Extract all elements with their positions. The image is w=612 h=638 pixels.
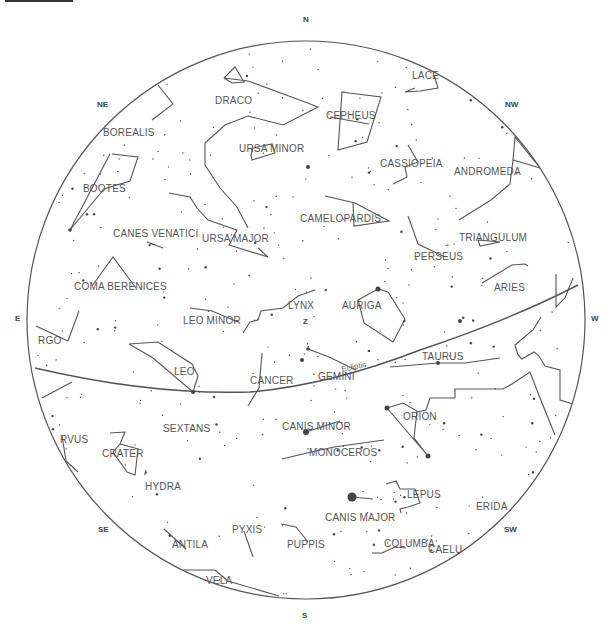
star (58, 202, 59, 203)
constellation-label: LEPUS (407, 489, 441, 500)
star (355, 140, 357, 142)
star (166, 84, 167, 85)
star (224, 445, 225, 446)
star (403, 496, 405, 498)
star (189, 159, 190, 160)
constellation-label: VELA (206, 575, 233, 586)
star (378, 529, 380, 531)
star (409, 402, 410, 403)
star (249, 53, 250, 54)
star (446, 345, 447, 346)
star (429, 424, 430, 425)
star (482, 497, 483, 498)
bright-star (68, 228, 72, 232)
star (478, 158, 479, 159)
star (65, 448, 66, 449)
star (334, 411, 335, 412)
star (213, 127, 214, 128)
star (114, 330, 115, 331)
star (278, 244, 279, 245)
star (282, 525, 283, 526)
star (62, 195, 63, 196)
star (180, 120, 181, 121)
star (210, 154, 211, 155)
star (395, 574, 396, 575)
star (480, 433, 482, 435)
star (417, 456, 418, 457)
star (338, 238, 339, 239)
star (402, 395, 403, 396)
constellation-label: MONOCEROS (309, 447, 378, 458)
bright-star (300, 358, 304, 362)
star (235, 229, 236, 230)
star (219, 432, 220, 433)
star (208, 311, 209, 312)
star (271, 314, 273, 316)
star (482, 278, 483, 279)
star (370, 461, 371, 462)
star (400, 231, 402, 233)
star (304, 353, 305, 354)
star (411, 269, 412, 270)
constellation-label: CANES VENATICI (113, 228, 198, 239)
star (263, 419, 264, 420)
star (308, 346, 309, 347)
sky-chart[interactable]: N NE NW E W SE SW S Z Ecliptic LACE DRAC… (0, 0, 612, 638)
star (236, 438, 237, 439)
direction-e: E (15, 314, 21, 323)
star (164, 134, 165, 135)
star (475, 449, 476, 450)
constellation-label: BOREALIS (103, 127, 155, 138)
star (539, 441, 540, 442)
star (493, 345, 495, 347)
constellation-label: RGO (38, 335, 61, 346)
star (370, 171, 371, 172)
star (313, 374, 314, 375)
star (124, 145, 125, 146)
star (215, 423, 217, 425)
bright-star (385, 406, 390, 411)
star (377, 61, 378, 62)
star (254, 320, 255, 321)
star (62, 330, 63, 331)
constellation-lines (35, 67, 578, 596)
constellation-label: PYXIS (232, 524, 263, 535)
direction-n: N (303, 15, 309, 24)
constellation-label: AURIGA (342, 300, 382, 311)
star (393, 498, 394, 499)
star (274, 232, 275, 233)
star (52, 428, 54, 430)
star (317, 69, 318, 70)
star (340, 531, 341, 532)
cepheus-lines (338, 92, 381, 150)
constellation-label: URSA MAJOR (202, 233, 269, 244)
star (100, 227, 101, 228)
star (199, 458, 201, 460)
star (464, 157, 465, 158)
star (537, 322, 538, 323)
star (282, 61, 283, 62)
star (335, 388, 336, 389)
star (84, 173, 85, 174)
star (387, 268, 388, 269)
constellation-label: URSA MINOR (239, 143, 304, 154)
cetus-lines (515, 317, 576, 405)
star (73, 240, 74, 241)
star (248, 275, 249, 276)
star (313, 385, 314, 386)
star (284, 507, 286, 509)
star (468, 533, 469, 534)
star (444, 331, 445, 332)
star (420, 182, 421, 183)
star (487, 221, 488, 222)
star (518, 354, 519, 355)
star (405, 359, 406, 360)
star (78, 272, 79, 273)
star (129, 197, 130, 198)
hydra-lines (145, 470, 147, 474)
star (384, 281, 385, 282)
constellation-label: ANDROMEDA (454, 166, 521, 177)
star (437, 218, 438, 219)
constellation-label: ERIDA (476, 501, 508, 512)
star (156, 493, 158, 495)
